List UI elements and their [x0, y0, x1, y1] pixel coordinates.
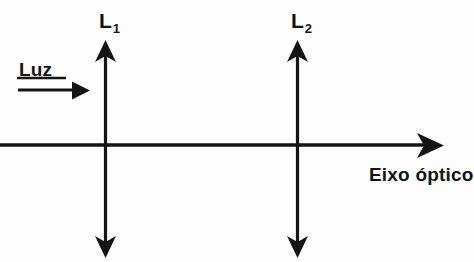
- lens-2-label-subscript: 2: [305, 21, 312, 36]
- lens-2: [287, 40, 308, 258]
- light-ray-arrow: [17, 78, 90, 100]
- optical-axis: [0, 133, 444, 158]
- lens-1-label-text: L: [99, 9, 112, 32]
- lens-1-label-subscript: 1: [113, 21, 120, 36]
- lens-1-label: L1: [99, 10, 119, 31]
- light-label: Luz: [19, 60, 52, 79]
- optical-axis-label: Eixo óptico: [369, 165, 474, 184]
- lens-2-label: L2: [291, 10, 311, 31]
- light-ray-arrowhead-icon: [72, 82, 90, 100]
- lens-1: [95, 40, 116, 258]
- lens-2-label-text: L: [291, 9, 304, 32]
